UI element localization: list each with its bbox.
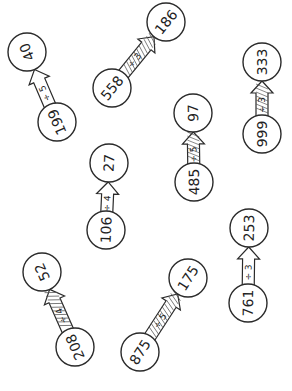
arrow-icon: ÷ 5 bbox=[182, 132, 204, 165]
operation-label: ÷ 3 bbox=[257, 97, 267, 113]
division-problem: ÷ 519940 bbox=[8, 33, 76, 141]
division-problem: ÷ 410627 bbox=[87, 144, 128, 249]
result-number-circle: 186 bbox=[147, 3, 185, 41]
result-number-circle: 175 bbox=[169, 259, 207, 297]
start-number-circle: 199 bbox=[38, 103, 76, 141]
start-number-circle: 208 bbox=[56, 328, 94, 366]
result-number: 27 bbox=[101, 154, 118, 173]
result-number-circle: 253 bbox=[230, 209, 268, 247]
start-number-circle: 875 bbox=[121, 333, 159, 371]
start-number: 761 bbox=[240, 290, 256, 317]
arrow-icon: ÷ 4 bbox=[96, 181, 119, 213]
start-number-circle: 106 bbox=[87, 211, 125, 249]
start-number: 999 bbox=[254, 121, 270, 148]
result-number: 333 bbox=[254, 49, 270, 76]
operation-label: ÷ 3 bbox=[243, 264, 253, 280]
division-problem: ÷ 3761253 bbox=[229, 209, 268, 322]
operation-label: ÷ 5 bbox=[188, 146, 198, 162]
result-number-circle: 40 bbox=[8, 33, 46, 71]
division-problem: ÷ 5875175 bbox=[121, 259, 207, 371]
division-problem: ÷ 3999333 bbox=[243, 43, 281, 153]
start-number: 106 bbox=[97, 216, 114, 244]
start-number: 485 bbox=[186, 169, 202, 196]
division-worksheet: ÷ 519940÷ 3558186÷ 3999333÷ 548597÷ 4106… bbox=[0, 0, 292, 391]
division-problem: ÷ 548597 bbox=[174, 94, 213, 201]
division-problem: ÷ 3558186 bbox=[93, 3, 185, 107]
start-number-circle: 485 bbox=[175, 163, 213, 201]
division-problem: ÷ 420852 bbox=[23, 253, 94, 366]
arrow-icon: ÷ 3 bbox=[237, 247, 260, 286]
start-number-circle: 558 bbox=[93, 69, 131, 107]
result-number-circle: 52 bbox=[23, 253, 61, 291]
arrow-icon: ÷ 3 bbox=[251, 81, 273, 117]
operation-label: ÷ 4 bbox=[102, 195, 113, 212]
result-number-circle: 97 bbox=[174, 94, 212, 132]
result-number: 253 bbox=[241, 215, 257, 242]
start-number-circle: 761 bbox=[229, 284, 267, 322]
start-number-circle: 999 bbox=[243, 115, 281, 153]
result-number-circle: 27 bbox=[90, 144, 128, 182]
result-number: 97 bbox=[185, 104, 201, 122]
result-number-circle: 333 bbox=[243, 43, 281, 81]
